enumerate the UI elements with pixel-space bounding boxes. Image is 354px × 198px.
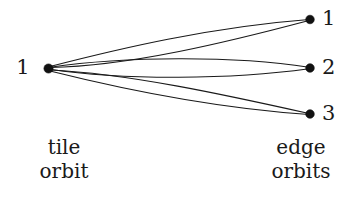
tile-orbit-node-label: 1 — [10, 57, 36, 78]
vertex-edge-orbit-3 — [306, 110, 315, 119]
vertex-edge-orbit-2 — [306, 64, 315, 73]
edge-tile-to-edgeorbit-1-upper — [50, 20, 309, 67]
edge-tile-to-edgeorbit-1-lower — [50, 21, 309, 68]
edge-orbit-node-label-2: 2 — [322, 57, 346, 78]
edge-group-to-node-1 — [50, 20, 309, 68]
tile-edge-orbit-diagram: 1 1 2 3 tile orbit edge orbits — [0, 0, 354, 198]
vertex-edge-orbit-1 — [306, 15, 315, 24]
edge-group-to-node-2 — [50, 59, 309, 77]
tile-orbit-caption-line-1: tile — [6, 136, 122, 160]
edge-orbit-node-label-3: 3 — [322, 103, 346, 124]
edge-orbits-caption-line-2: orbits — [248, 160, 354, 184]
edge-orbits-caption-line-1: edge — [248, 136, 354, 160]
tile-orbit-caption: tile orbit — [6, 136, 122, 183]
tile-orbit-caption-line-2: orbit — [6, 160, 122, 184]
edge-tile-to-edgeorbit-3-upper — [50, 70, 309, 114]
edge-orbits-caption: edge orbits — [248, 136, 354, 183]
vertex-tile-orbit-1 — [44, 64, 53, 73]
edge-tile-to-edgeorbit-2-upper — [50, 59, 309, 67]
edge-orbit-node-label-1: 1 — [322, 8, 346, 29]
